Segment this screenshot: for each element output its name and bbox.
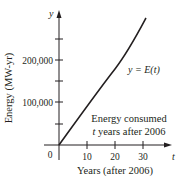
xtick-label-10: 10 <box>82 152 92 162</box>
xtick-label-30: 30 <box>138 152 148 162</box>
x-axis-label: Years (after 2006) <box>77 165 153 177</box>
chart: y t 200,000 100,000 0 10 20 30 Years (af… <box>0 0 183 182</box>
caption-line-2: t years after 2006 <box>92 126 165 137</box>
ytick-label-200000: 200,000 <box>22 56 53 66</box>
x-axis-arrow-icon <box>164 143 172 148</box>
caption-rest: years after 2006 <box>95 126 165 137</box>
xtick-label-20: 20 <box>110 152 120 162</box>
origin-label: 0 <box>48 150 53 160</box>
y-axis-symbol: y <box>48 8 54 19</box>
y-axis-label: Energy (MW-yr) <box>3 52 15 123</box>
ytick-label-100000: 100,000 <box>22 98 53 108</box>
y-axis-arrow-icon <box>57 10 62 18</box>
caption-line-1: Energy consumed <box>91 113 167 124</box>
curve-label: y = E(t) <box>127 64 160 76</box>
x-axis-symbol: t <box>172 151 175 162</box>
curve-label-text: y = E(t) <box>127 64 160 76</box>
